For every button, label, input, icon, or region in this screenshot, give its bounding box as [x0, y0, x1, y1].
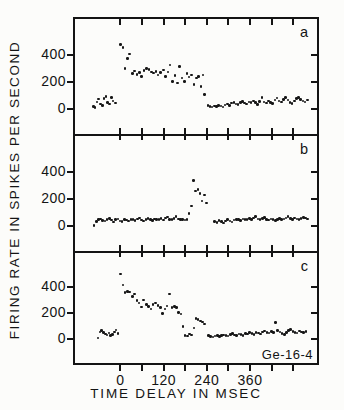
data-point — [97, 337, 100, 340]
data-point — [162, 69, 165, 72]
data-point — [245, 103, 248, 106]
data-point — [131, 295, 134, 298]
data-point — [186, 72, 189, 75]
data-point — [228, 104, 231, 107]
x-tick-mark — [119, 130, 121, 140]
data-point — [122, 46, 125, 49]
y-tick-mark — [67, 338, 73, 340]
y-tick-mark — [67, 171, 73, 173]
data-point — [253, 333, 256, 336]
data-point — [193, 327, 196, 330]
x-axis-tick — [249, 365, 251, 371]
y-tick-label: 200 — [30, 73, 66, 89]
data-point — [119, 273, 122, 276]
x-tick-mark — [141, 19, 143, 25]
x-axis-tick — [163, 365, 165, 371]
data-point — [190, 74, 193, 77]
data-point — [280, 101, 283, 104]
data-point — [122, 284, 125, 287]
data-point — [94, 106, 97, 109]
data-point — [128, 53, 131, 56]
data-point — [178, 65, 181, 68]
y-tick-mark — [311, 81, 317, 83]
x-tick-mark — [163, 247, 165, 257]
data-point — [274, 321, 277, 324]
data-point — [108, 103, 111, 106]
data-point — [261, 96, 264, 99]
panel-b-letter: b — [300, 141, 308, 157]
data-point — [112, 221, 115, 224]
data-point — [164, 75, 167, 78]
data-point — [97, 98, 100, 101]
data-point — [296, 332, 299, 335]
y-tick-label: 400 — [30, 163, 66, 179]
y-tick-mark — [67, 198, 73, 200]
y-tick-label: 0 — [30, 100, 66, 116]
data-point — [199, 192, 202, 195]
data-point — [180, 313, 183, 316]
x-tick-mark — [271, 247, 273, 257]
data-point — [159, 306, 162, 309]
data-point — [162, 219, 165, 222]
data-point — [164, 308, 167, 311]
y-tick-mark — [311, 171, 317, 173]
data-point — [175, 306, 178, 309]
x-tick-mark — [206, 247, 208, 257]
data-point — [192, 179, 195, 182]
x-tick-mark — [119, 19, 121, 25]
data-point — [159, 71, 162, 74]
data-point — [265, 102, 268, 105]
data-point — [197, 188, 200, 191]
data-point — [110, 96, 113, 99]
data-point — [114, 102, 117, 105]
x-tick-mark — [271, 130, 273, 140]
x-axis-tick — [141, 365, 143, 371]
data-point — [274, 99, 277, 102]
data-point — [201, 200, 204, 203]
data-point — [197, 75, 200, 78]
data-point — [138, 71, 141, 74]
data-point — [271, 102, 274, 105]
data-point — [166, 305, 169, 308]
x-tick-mark — [227, 19, 229, 25]
data-point — [117, 332, 120, 335]
y-tick-mark — [311, 54, 317, 56]
x-tick-mark — [163, 19, 165, 25]
figure: FIRING RATE IN SPIKES PER SECOND a 02004… — [0, 0, 344, 410]
data-point — [272, 331, 275, 334]
x-tick-mark — [249, 130, 251, 140]
data-point — [168, 293, 171, 296]
panel-c: c Ge-16-4 0200400 — [75, 251, 317, 363]
data-point — [306, 218, 309, 221]
x-axis-title: TIME DELAY IN MSEC — [48, 386, 304, 401]
data-point — [200, 85, 203, 88]
y-tick-mark — [311, 286, 317, 288]
data-point — [101, 104, 104, 107]
data-point — [188, 76, 191, 79]
data-point — [131, 72, 134, 75]
y-tick-mark — [67, 81, 73, 83]
data-point — [93, 224, 96, 227]
data-point — [167, 71, 170, 74]
y-axis-title: FIRING RATE IN SPIKES PER SECOND — [7, 41, 22, 340]
data-point — [96, 101, 99, 104]
data-point — [306, 99, 309, 102]
data-point — [186, 335, 189, 338]
data-point — [258, 100, 261, 103]
data-point — [203, 93, 206, 96]
data-point — [203, 194, 206, 197]
data-point — [291, 102, 294, 105]
x-tick-mark — [184, 130, 186, 140]
x-tick-mark — [184, 247, 186, 257]
y-tick-mark — [67, 312, 73, 314]
data-point — [181, 77, 184, 80]
data-point — [171, 80, 174, 83]
x-tick-mark — [206, 19, 208, 25]
panel-b: b 0200400 — [75, 134, 317, 251]
data-point — [124, 67, 127, 70]
unit-id-annotation: Ge-16-4 — [262, 347, 313, 362]
x-tick-mark — [141, 130, 143, 140]
data-point — [133, 70, 136, 73]
data-point — [119, 43, 122, 46]
data-point — [174, 74, 177, 77]
